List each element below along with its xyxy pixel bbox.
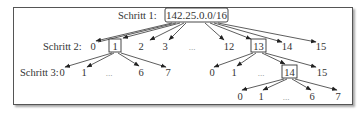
edge-14-1 (263, 79, 287, 90)
level4-node: 6 (309, 91, 314, 102)
edge-13-0 (214, 53, 253, 67)
level3-ellipsis: ... (258, 68, 265, 78)
step-1-label: Schritt 1: (118, 10, 157, 21)
edge-1-7 (121, 53, 166, 67)
level4-ellipsis: ... (283, 92, 290, 102)
level3-node: 6 (138, 67, 143, 78)
level2-node: 3 (162, 41, 167, 52)
level3-node: 1 (81, 67, 86, 78)
level3-left-nodes: 0 1 ... 6 7 (59, 67, 170, 78)
edge-root-12 (205, 23, 224, 40)
level2-ellipsis: ... (189, 42, 196, 52)
level2-node: 2 (138, 41, 143, 52)
edge-1-1 (87, 53, 114, 67)
edge-14-0 (242, 79, 284, 90)
level4-node: 7 (335, 91, 340, 102)
level2-node: 12 (224, 41, 235, 52)
edge-1-0 (65, 53, 112, 67)
level2-node: 1 (112, 41, 117, 52)
level2-node: 13 (253, 41, 264, 52)
edges-node1-to-level3 (65, 53, 166, 67)
level3-ellipsis: ... (106, 68, 113, 78)
edge-root-0 (96, 23, 172, 41)
level4-node: 0 (237, 91, 242, 102)
level2-node: 14 (282, 41, 293, 52)
level3-node: 0 (59, 67, 64, 78)
edge-root-1 (123, 23, 180, 38)
level3-node: 0 (209, 67, 214, 78)
level3-right-nodes: 0 1 ... 14 15 (209, 65, 327, 78)
edge-root-15 (218, 23, 316, 42)
level2-nodes: 0 1 2 3 ... 12 13 14 15 (90, 39, 326, 52)
level2-node: 0 (90, 41, 95, 52)
level4-nodes: 0 1 ... 6 7 (237, 91, 340, 102)
edges-node13-to-level3 (214, 53, 316, 67)
level4-node: 1 (258, 91, 263, 102)
step-2-label: Schritt 2: (43, 41, 82, 52)
subnet-tree-diagram: Schritt 1: Schritt 2: Schritt 3: 142.25.… (0, 0, 362, 114)
edge-13-14 (262, 53, 285, 64)
step-3-label: Schritt 3: (20, 67, 59, 78)
level3-node: 7 (165, 67, 170, 78)
level3-node: 1 (231, 67, 236, 78)
edges-root-to-level2 (96, 23, 316, 42)
root-node-label: 142.25.0.0/16 (166, 9, 227, 21)
edge-root-14 (214, 23, 282, 42)
level3-node: 15 (317, 67, 328, 78)
edges-node14-to-level4 (242, 79, 337, 90)
level3-node: 14 (284, 67, 295, 78)
level2-node: 15 (316, 41, 327, 52)
